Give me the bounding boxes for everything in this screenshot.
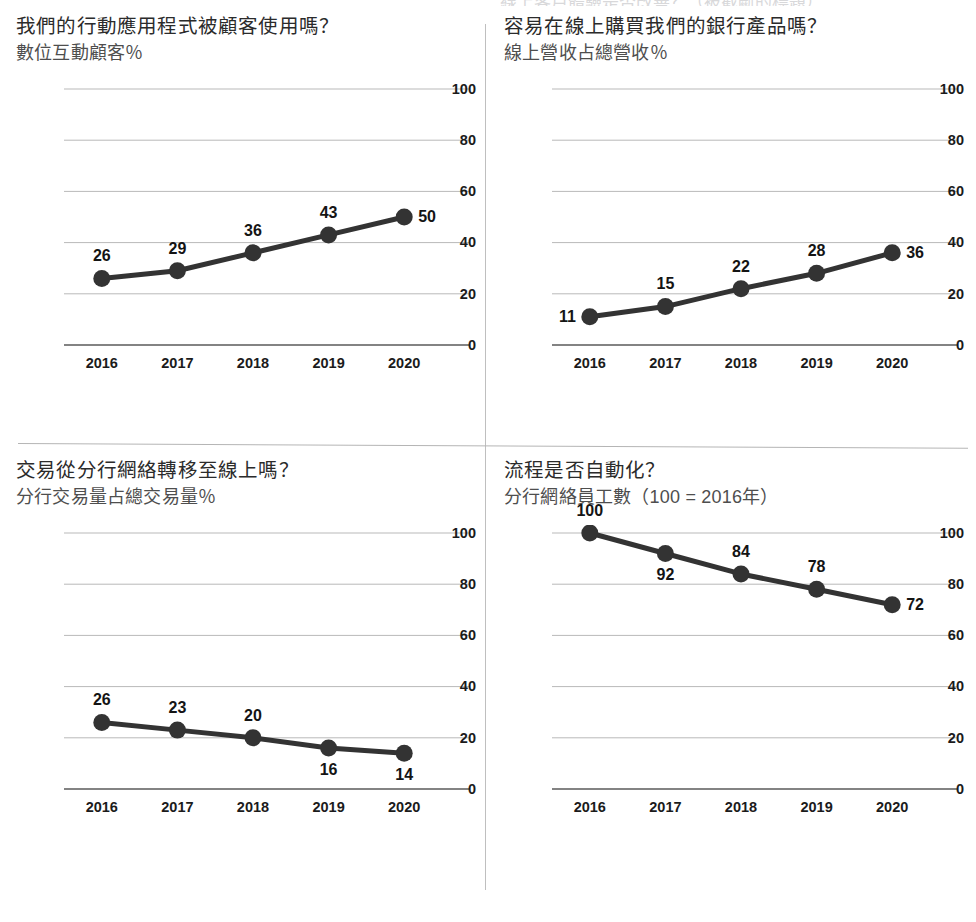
data-point-value-label: 20	[244, 707, 262, 725]
data-point-marker	[320, 739, 337, 756]
y-axis-tick-label: 100	[928, 81, 964, 97]
chart-canvas	[504, 525, 964, 835]
data-point-marker	[245, 729, 262, 746]
data-point-value-label: 26	[93, 691, 111, 709]
panel-title: 交易從分行網絡轉移至線上嗎？	[16, 458, 486, 482]
y-axis-tick-label: 0	[440, 337, 476, 353]
x-axis-tick-label: 2019	[312, 799, 344, 815]
y-axis-tick-label: 80	[440, 132, 476, 148]
y-axis-tick-label: 40	[928, 234, 964, 250]
infographic-page: 線上客戶體驗是否改善？（被截斷的標題） 我們的行動應用程式被顧客使用嗎？ 數位互…	[0, 0, 976, 922]
y-axis-tick-label: 40	[928, 678, 964, 694]
data-point-marker	[884, 244, 901, 261]
data-point-marker	[733, 565, 750, 582]
x-axis-tick-label: 2017	[161, 799, 193, 815]
x-axis-tick-label: 2020	[876, 799, 908, 815]
panel-title: 我們的行動應用程式被顧客使用嗎？	[16, 14, 486, 38]
x-axis-tick-label: 2020	[388, 799, 420, 815]
cut-off-header-text: 線上客戶體驗是否改善？（被截斷的標題）	[500, 0, 920, 6]
y-axis-tick-label: 60	[440, 627, 476, 643]
x-axis-tick-label: 2016	[86, 799, 118, 815]
x-axis-tick-label: 2019	[312, 355, 344, 371]
y-axis-tick-label: 20	[928, 286, 964, 302]
data-point-marker	[320, 226, 337, 243]
data-point-marker	[396, 745, 413, 762]
data-point-value-label: 100	[576, 502, 603, 520]
x-axis-tick-label: 2017	[649, 355, 681, 371]
x-axis-tick-label: 2016	[86, 355, 118, 371]
chart-canvas	[16, 525, 476, 835]
panel-subtitle: 分行交易量占總交易量％	[16, 486, 486, 509]
y-axis-tick-label: 100	[928, 525, 964, 541]
data-point-value-label: 14	[395, 766, 413, 784]
data-point-marker	[581, 525, 598, 542]
chart-online-product-purchase: 0204060801002016201720182019202011152228…	[504, 81, 964, 391]
x-axis-tick-label: 2018	[725, 799, 757, 815]
y-axis-tick-label: 60	[440, 183, 476, 199]
y-axis-tick-label: 100	[440, 81, 476, 97]
y-axis-tick-label: 40	[440, 234, 476, 250]
x-axis-tick-label: 2018	[725, 355, 757, 371]
data-point-marker	[808, 265, 825, 282]
panel-subtitle: 數位互動顧客％	[16, 42, 486, 65]
x-axis-tick-label: 2018	[237, 355, 269, 371]
data-point-marker	[169, 262, 186, 279]
data-point-value-label: 28	[808, 242, 826, 260]
panel-title: 容易在線上購買我們的銀行產品嗎？	[504, 14, 974, 38]
y-axis-tick-label: 20	[928, 730, 964, 746]
data-point-marker	[581, 308, 598, 325]
data-point-value-label: 15	[656, 275, 674, 293]
data-point-value-label: 84	[732, 543, 750, 561]
panel-branch-to-online-shift: 交易從分行網絡轉移至線上嗎？ 分行交易量占總交易量％ 0204060801002…	[16, 458, 486, 878]
data-point-value-label: 23	[168, 699, 186, 717]
y-axis-tick-label: 60	[928, 183, 964, 199]
data-point-marker	[396, 208, 413, 225]
y-axis-tick-label: 20	[440, 730, 476, 746]
data-point-value-label: 50	[418, 208, 436, 226]
data-point-value-label: 72	[906, 596, 924, 614]
chart-process-automation: 0204060801002016201720182019202010092847…	[504, 525, 964, 835]
y-axis-tick-label: 0	[928, 781, 964, 797]
y-axis-tick-label: 20	[440, 286, 476, 302]
horizontal-divider	[18, 443, 968, 449]
data-point-value-label: 29	[168, 240, 186, 258]
x-axis-tick-label: 2018	[237, 799, 269, 815]
panel-title: 流程是否自動化？	[504, 458, 974, 482]
y-axis-tick-label: 100	[440, 525, 476, 541]
x-axis-tick-label: 2020	[388, 355, 420, 371]
data-point-value-label: 16	[320, 761, 338, 779]
data-point-marker	[657, 545, 674, 562]
data-point-marker	[657, 298, 674, 315]
data-point-marker	[733, 280, 750, 297]
chart-branch-to-online-shift: 0204060801002016201720182019202026232016…	[16, 525, 476, 835]
chart-mobile-app-usage: 0204060801002016201720182019202026293643…	[16, 81, 476, 391]
data-point-value-label: 36	[906, 244, 924, 262]
data-point-value-label: 36	[244, 222, 262, 240]
x-axis-tick-label: 2020	[876, 355, 908, 371]
x-axis-tick-label: 2019	[800, 355, 832, 371]
data-point-value-label: 11	[559, 308, 576, 326]
y-axis-tick-label: 0	[928, 337, 964, 353]
x-axis-tick-label: 2017	[649, 799, 681, 815]
panel-subtitle: 線上營收占總營收％	[504, 42, 974, 65]
panel-subtitle: 分行網絡員工數（100 = 2016年）	[504, 486, 974, 509]
data-point-marker	[808, 581, 825, 598]
data-point-marker	[169, 721, 186, 738]
data-point-value-label: 78	[808, 558, 826, 576]
x-axis-tick-label: 2019	[800, 799, 832, 815]
x-axis-tick-label: 2016	[574, 799, 606, 815]
y-axis-tick-label: 40	[440, 678, 476, 694]
y-axis-tick-label: 80	[928, 576, 964, 592]
panel-online-product-purchase: 容易在線上購買我們的銀行產品嗎？ 線上營收占總營收％ 0204060801002…	[504, 14, 974, 434]
panel-process-automation: 流程是否自動化？ 分行網絡員工數（100 = 2016年） 0204060801…	[504, 458, 974, 878]
y-axis-tick-label: 80	[440, 576, 476, 592]
data-point-marker	[93, 270, 110, 287]
y-axis-tick-label: 80	[928, 132, 964, 148]
y-axis-tick-label: 0	[440, 781, 476, 797]
data-point-value-label: 26	[93, 247, 111, 265]
data-point-marker	[245, 244, 262, 261]
panel-mobile-app-usage: 我們的行動應用程式被顧客使用嗎？ 數位互動顧客％ 020406080100201…	[16, 14, 486, 434]
data-point-marker	[93, 714, 110, 731]
x-axis-tick-label: 2017	[161, 355, 193, 371]
chart-canvas	[504, 81, 964, 391]
